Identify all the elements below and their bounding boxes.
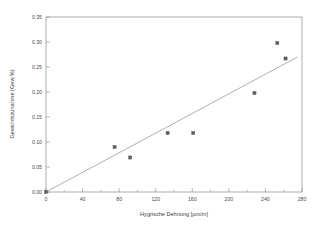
data-point-marker <box>192 131 195 134</box>
x-tick-label: 160 <box>188 196 197 202</box>
data-point-marker <box>166 131 169 134</box>
y-tick-label: 0.10 <box>32 139 42 145</box>
y-tick-label: 0.20 <box>32 89 42 95</box>
data-point-marker <box>44 190 47 193</box>
x-tick-label: 40 <box>80 196 86 202</box>
x-tick-label: 200 <box>225 196 234 202</box>
y-tick-label: 0.35 <box>32 14 42 20</box>
data-point-marker <box>276 41 279 44</box>
data-point-marker <box>129 156 132 159</box>
y-axis-title: Gewichtszunahme (Gew.%) <box>9 69 15 138</box>
data-point-marker <box>113 145 116 148</box>
x-tick-label: 240 <box>261 196 270 202</box>
data-point-marker <box>284 57 287 60</box>
x-tick-label: 280 <box>298 196 307 202</box>
y-tick-label: 0.25 <box>32 64 42 70</box>
x-tick-label: 120 <box>151 196 160 202</box>
y-tick-label: 0.00 <box>32 189 42 195</box>
chart-figure: 04080120160200240280 0.000.050.100.150.2… <box>0 0 316 231</box>
plot-area: 04080120160200240280 0.000.050.100.150.2… <box>32 14 307 202</box>
y-tick-label: 0.15 <box>32 114 42 120</box>
y-tick-label: 0.30 <box>32 39 42 45</box>
x-axis-title: Hygrische Dehnung [µm/m] <box>140 211 208 217</box>
plot-background <box>46 17 302 192</box>
y-tick-label: 0.05 <box>32 164 42 170</box>
data-point-marker <box>253 91 256 94</box>
x-tick-label: 80 <box>116 196 122 202</box>
x-tick-label: 0 <box>45 196 48 202</box>
